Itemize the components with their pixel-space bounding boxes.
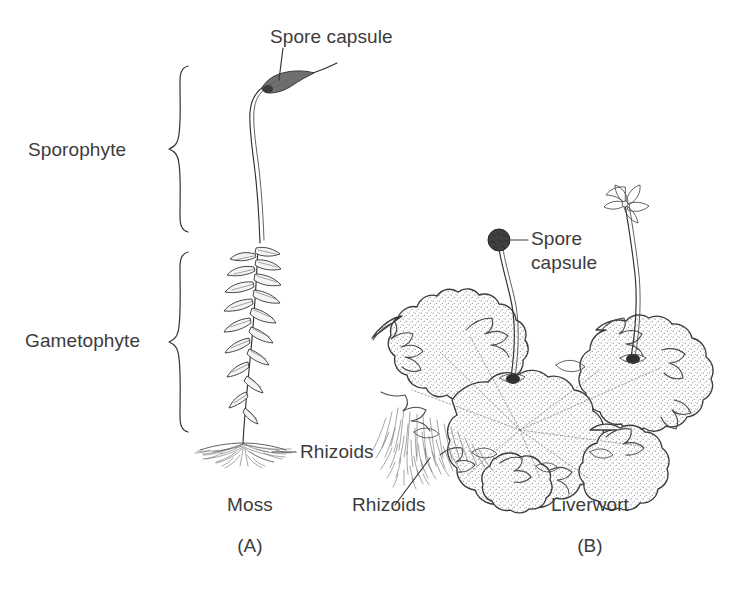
sporophyte-label: Sporophyte [28,139,126,161]
figure-canvas: Spore capsule Sporophyte Gametophyte Rhi… [0,0,756,591]
moss-spore-capsule-label: Spore capsule [270,26,393,48]
liverwort-thallus [372,289,713,513]
liverwort-name-label: Liverwort [525,494,655,516]
liverwort-spore-capsule-label-line1: Spore [531,228,582,250]
moss-panel-letter: (A) [200,535,300,557]
liverwort-panel-letter: (B) [525,535,655,557]
moss-gametophyte-shoot [224,247,281,444]
liverwort-rhizoids-label: Rhizoids [352,494,426,516]
sporophyte-bracket [169,66,188,232]
moss-seta [250,87,266,243]
moss-name-label: Moss [200,494,300,516]
moss-rhizoids-label: Rhizoids [300,441,374,463]
moss-rhizoids [195,443,291,468]
gametophyte-bracket [169,252,188,432]
liverwort-spore-capsule-label-line2: capsule [531,252,597,274]
liverwort-spore-capsule [488,229,510,251]
gametophyte-label: Gametophyte [25,330,140,352]
moss-spore-capsule [262,63,337,93]
